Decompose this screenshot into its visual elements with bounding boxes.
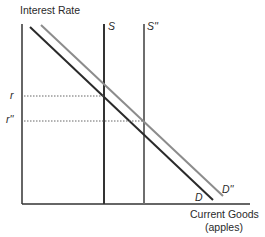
x-axis-label-line2: (apples)	[205, 221, 243, 233]
demand-curve-d	[30, 27, 213, 200]
x-axis-label-line1: Current Goods	[190, 208, 259, 220]
rate-r-label: r	[10, 89, 14, 101]
demand-label: D	[195, 191, 203, 203]
supply-label: S	[108, 20, 115, 32]
diagram-canvas: Interest Rate S S'' r r'' D D'' Current …	[0, 0, 265, 237]
demand-curve-d-shifted	[41, 25, 223, 196]
supply-shifted-label: S''	[147, 20, 158, 32]
diagram-svg	[0, 0, 265, 237]
y-axis-label: Interest Rate	[20, 4, 80, 16]
rate-r-shifted-label: r''	[6, 113, 14, 125]
demand-shifted-label: D''	[222, 183, 234, 195]
